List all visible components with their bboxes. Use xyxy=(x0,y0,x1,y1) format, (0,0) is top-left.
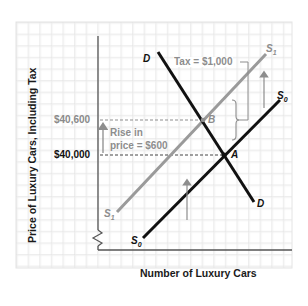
supply-s0-label-bottom: S0 xyxy=(131,236,142,248)
price-label-b: $40,600 xyxy=(54,115,90,125)
y-axis-label: Price of Luxury Cars, Including Tax xyxy=(27,45,38,265)
demand-label-top: D xyxy=(143,54,150,64)
x-axis-label: Number of Luxury Cars xyxy=(140,268,257,279)
demand-label-bottom: D xyxy=(257,199,264,209)
price-label-a: $40,000 xyxy=(54,150,90,160)
point-b-label: B xyxy=(208,115,215,125)
point-b-marker xyxy=(201,118,206,123)
supply-s1-label-bottom: S1 xyxy=(104,209,115,221)
rise-in-price-line1: Rise in xyxy=(110,128,143,138)
chart-canvas xyxy=(0,0,308,306)
supply-s1-label-top: S1 xyxy=(266,44,277,56)
point-a-label: A xyxy=(231,150,238,160)
tax-label: Tax = $1,000 xyxy=(173,57,233,67)
supply-s0-label-top: S0 xyxy=(277,91,288,103)
point-a-marker xyxy=(222,153,227,158)
rise-in-price-line2: price = $600 xyxy=(110,141,168,151)
